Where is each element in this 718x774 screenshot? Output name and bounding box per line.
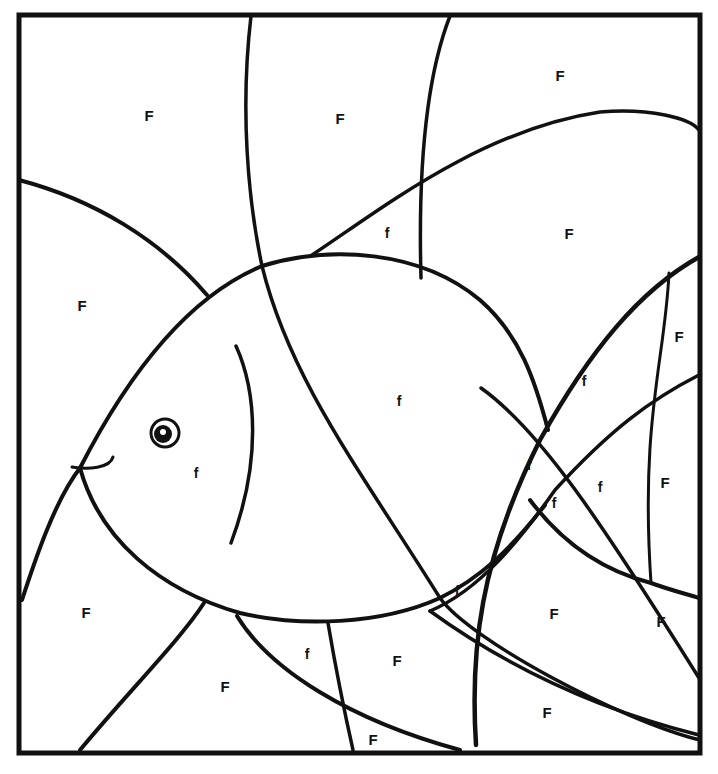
lowercase-f-label: f [527, 457, 532, 473]
coloring-page: FFFfFFFffffffFfFFFfFFFF [0, 0, 718, 774]
uppercase-f-label: F [81, 604, 90, 621]
page-frame [19, 15, 700, 753]
right-fan-inner-line [648, 273, 669, 583]
uppercase-f-label: F [335, 110, 344, 127]
region-outlines [19, 16, 700, 750]
uppercase-f-label: F [660, 474, 669, 491]
left-arc-upper-line [19, 180, 207, 295]
lowercase-f-label: f [305, 646, 310, 662]
uppercase-f-label: F [674, 328, 683, 345]
uppercase-f-label: F [542, 704, 551, 721]
vertical-arc-left-line [246, 16, 700, 740]
right-wave-2-line [430, 375, 699, 611]
uppercase-f-label: F [77, 297, 86, 314]
uppercase-f-label: F [220, 678, 229, 695]
uppercase-f-label: F [368, 731, 377, 748]
lowercase-f-label: f [455, 583, 460, 599]
left-edge-arc-line [22, 468, 80, 600]
x-cross-line-line [481, 388, 699, 678]
lower-vert-mid-line [328, 623, 353, 750]
eye-highlight [160, 429, 166, 435]
uppercase-f-label: F [656, 613, 665, 630]
lowercase-f-label: f [582, 373, 587, 389]
uppercase-f-label: F [144, 107, 153, 124]
uppercase-f-label: F [549, 605, 558, 622]
lowercase-f-label: f [385, 225, 390, 241]
fish-eye-icon [151, 419, 179, 447]
lowercase-f-label: f [598, 479, 603, 495]
fish-gill-line [231, 346, 253, 543]
uppercase-f-label: F [392, 652, 401, 669]
lower-left-arc-line [80, 603, 204, 750]
uppercase-f-label: F [564, 225, 573, 242]
lowercase-f-label: f [194, 465, 199, 481]
lowercase-f-label: f [552, 495, 557, 511]
uppercase-f-label: F [555, 67, 564, 84]
fish-mouth-line [72, 457, 113, 468]
top-wave-line [312, 111, 699, 255]
vertical-arc-mid-line [420, 16, 450, 278]
lowercase-f-label: f [397, 393, 402, 409]
fish-body-bottom-line [80, 468, 545, 622]
